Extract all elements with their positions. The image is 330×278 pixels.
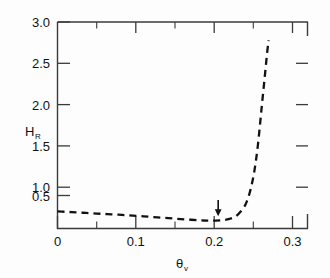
y-tick-label-2: 2.0 xyxy=(32,98,50,113)
x-tick-label-0p3: 0.3 xyxy=(283,234,301,249)
x-axis-title-text: θ xyxy=(176,256,183,271)
y-tick-label-0p5: 0.5 xyxy=(32,189,50,204)
y-tick-label-3: 3.0 xyxy=(32,15,50,30)
x-axis-title-subscript: v xyxy=(184,264,188,273)
x-tick-label-0: 0 xyxy=(54,234,61,249)
x-tick-label-0p1: 0.1 xyxy=(127,234,145,249)
chart-plot: 3.0 2.5 2.0 1.5 1.0 0.5 0 0.1 0.2 0.3 H … xyxy=(0,0,330,278)
y-axis-title-subscript: R xyxy=(35,132,41,141)
x-tick-label-0p2: 0.2 xyxy=(205,234,223,249)
y-tick-label-2p5: 2.5 xyxy=(32,56,50,71)
figure-container: 3.0 2.5 2.0 1.5 1.0 0.5 0 0.1 0.2 0.3 H … xyxy=(0,0,330,278)
y-tick-label-1p5: 1.5 xyxy=(32,139,50,154)
y-axis-title-text: H xyxy=(25,124,34,139)
